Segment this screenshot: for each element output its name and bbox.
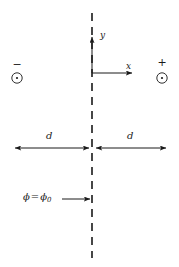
figure-canvas <box>0 0 179 267</box>
left-charge-sign-label: − <box>10 59 24 70</box>
left-charge-dot-icon <box>16 77 18 79</box>
left-distance-label: d <box>46 131 52 141</box>
equals-sign: = <box>30 191 40 202</box>
physics-figure: − + y x d d ϕ=ϕ0 <box>0 0 179 267</box>
phi-subscript: 0 <box>47 196 51 204</box>
y-axis-label: y <box>100 31 105 40</box>
x-axis-label: x <box>126 62 131 71</box>
potential-boundary-condition-label: ϕ=ϕ0 <box>23 192 52 204</box>
right-distance-label: d <box>127 131 133 141</box>
right-charge-dot-icon <box>161 77 163 79</box>
phi-symbol: ϕ <box>23 191 30 202</box>
right-charge-sign-label: + <box>155 57 169 68</box>
